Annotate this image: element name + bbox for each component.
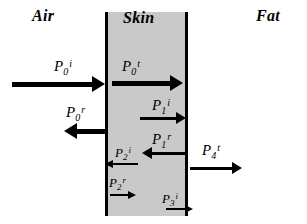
p2-incident-label-subscript: 2	[123, 152, 128, 162]
p2-reflected-label-base: P	[109, 175, 117, 190]
p2-reflected-arrow-shaft	[110, 194, 128, 196]
p4-transmitted-arrow-shaft	[190, 167, 232, 170]
p4-transmitted-label: P4t	[202, 142, 220, 161]
p4-transmitted-arrow-head-icon	[232, 162, 242, 174]
p0-reflected-label-subscript: 0	[75, 112, 80, 123]
p0-reflected-label-superscript: r	[81, 104, 85, 115]
p0-transmitted-arrow-shaft	[112, 81, 170, 86]
air-skin-boundary-line	[105, 12, 108, 216]
p4-transmitted-label-subscript: 4	[211, 150, 216, 161]
p1-incident-label-subscript: 1	[161, 105, 166, 116]
p1-incident-arrow-head-icon	[176, 112, 186, 124]
p1-reflected-label-subscript: 1	[161, 139, 166, 150]
p2-incident-label-superscript: i	[128, 145, 131, 155]
p4-transmitted-label-base: P	[202, 142, 211, 158]
acoustic-layer-diagram: Air Skin Fat P0iP0tP0rP1iP1rP2iP2rP3iP4t	[0, 0, 307, 224]
p2-incident-label-base: P	[115, 145, 123, 160]
p0-reflected-arrow-shaft	[77, 129, 105, 134]
p2-incident-arrow-shaft	[113, 163, 138, 165]
p1-incident-label-base: P	[152, 97, 161, 113]
p0-transmitted-label-superscript: t	[137, 58, 140, 69]
p4-transmitted-label-superscript: t	[217, 142, 220, 153]
p3-incident-label-base: P	[162, 191, 170, 206]
p2-reflected-label: P2r	[109, 174, 126, 192]
p0-incident-label-base: P	[54, 58, 63, 74]
p0-reflected-label-base: P	[66, 104, 75, 120]
region-label-air: Air	[32, 7, 54, 25]
region-label-fat: Fat	[256, 7, 280, 25]
p2-reflected-label-subscript: 2	[117, 182, 122, 192]
p0-transmitted-label: P0t	[122, 58, 140, 77]
p1-incident-arrow-shaft	[140, 117, 176, 120]
p2-incident-arrow-head-icon	[105, 160, 113, 168]
p2-incident-label: P2i	[115, 144, 131, 162]
region-label-skin: Skin	[123, 9, 154, 27]
p1-reflected-label: P1r	[152, 131, 171, 150]
p0-reflected-arrow-head-icon	[64, 123, 77, 139]
p3-incident-label-superscript: i	[175, 191, 178, 201]
p0-incident-arrow-head-icon	[92, 76, 105, 92]
p1-incident-label-superscript: i	[167, 97, 170, 108]
p0-transmitted-label-base: P	[122, 58, 131, 74]
p0-transmitted-label-subscript: 0	[131, 66, 136, 77]
p1-reflected-arrow-head-icon	[142, 147, 152, 159]
p3-incident-label-subscript: 3	[170, 198, 175, 208]
p3-incident-arrow-shaft	[166, 208, 185, 210]
p0-reflected-label: P0r	[66, 104, 85, 123]
p1-reflected-arrow-shaft	[152, 152, 185, 155]
p2-reflected-label-superscript: r	[122, 175, 126, 185]
p1-incident-label: P1i	[152, 97, 170, 116]
p3-incident-arrow-head-icon	[185, 205, 193, 213]
p3-incident-label: P3i	[162, 190, 178, 208]
p0-transmitted-arrow-head-icon	[170, 75, 183, 91]
p1-reflected-label-superscript: r	[167, 131, 171, 142]
p0-incident-label-subscript: 0	[63, 66, 68, 77]
p2-reflected-arrow-head-icon	[128, 191, 136, 199]
p0-incident-arrow-shaft	[12, 82, 92, 87]
p1-reflected-label-base: P	[152, 131, 161, 147]
p0-incident-label: P0i	[54, 58, 72, 77]
p0-incident-label-superscript: i	[69, 58, 72, 69]
